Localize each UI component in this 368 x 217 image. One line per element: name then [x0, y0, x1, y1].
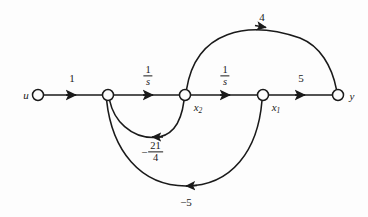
gain-label-output: 5: [298, 73, 304, 84]
signal-flow-graph-figure: u x2 x1 y 1 1 s 1 s 5 4 − 21 4 −5: [0, 0, 368, 217]
node-label-x2-subscript: 2: [199, 106, 203, 115]
gain-label-inner-feedback-fraction: 21 4: [148, 140, 163, 163]
gain-label-outer-feedback: −5: [180, 197, 192, 208]
node-label-x2: x2: [194, 102, 203, 115]
gain-label-inner-feedback-denominator: 4: [148, 152, 163, 164]
gain-label-integrator-1: 1 s: [143, 64, 152, 87]
gain-label-forward-1: 1: [69, 73, 75, 84]
edge-x2-to-n2-feedback: [110, 100, 184, 137]
node-summing-junction: [103, 90, 114, 101]
gain-label-inner-feedback-sign: −: [141, 146, 147, 158]
node-y: [333, 90, 344, 101]
gain-label-integrator-2-numerator: 1: [220, 64, 229, 75]
graph-canvas: [0, 0, 368, 217]
node-u: [33, 90, 44, 101]
gain-label-integrator-2-denominator: s: [220, 76, 229, 88]
gain-label-inner-feedback: − 21 4: [141, 140, 163, 163]
arrowhead-x2-to-y-arc: [255, 26, 266, 28]
gain-label-integrator-2: 1 s: [220, 64, 229, 87]
node-x1: [258, 90, 269, 101]
gain-label-feedforward: 4: [259, 12, 265, 23]
gain-label-integrator-1-numerator: 1: [143, 64, 152, 75]
node-label-x1-subscript: 1: [277, 106, 281, 115]
node-x2: [180, 90, 191, 101]
node-label-y: y: [350, 91, 355, 102]
node-label-u: u: [23, 90, 29, 101]
gain-label-integrator-1-denominator: s: [143, 76, 152, 88]
edge-x2-to-y-arc: [187, 30, 337, 90]
gain-label-inner-feedback-numerator: 21: [148, 140, 163, 151]
node-label-x1: x1: [272, 102, 281, 115]
edge-x1-to-n2-feedback: [107, 100, 262, 186]
